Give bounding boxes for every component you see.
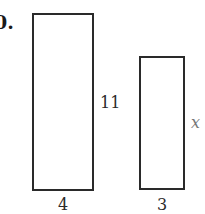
small-rectangle-width-label: 3 xyxy=(157,197,167,213)
diagram: 0. 11 4 x 3 xyxy=(0,0,205,214)
large-rectangle-height-label: 11 xyxy=(100,95,120,111)
large-rectangle xyxy=(32,13,94,191)
large-rectangle-width-label: 4 xyxy=(58,197,68,213)
problem-number: 0. xyxy=(0,13,14,32)
small-rectangle-height-label: x xyxy=(191,115,200,131)
small-rectangle xyxy=(139,56,185,190)
